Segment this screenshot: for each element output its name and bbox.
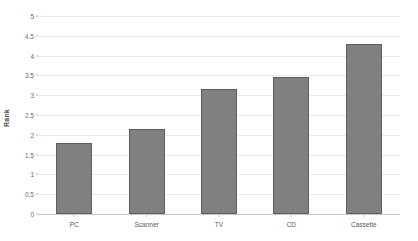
x-tick-mark [74,214,75,217]
bar-group: Scanner [110,16,182,214]
y-tick-label: 2.5 [25,112,34,119]
y-tick-label: 4.5 [25,32,34,39]
bar-group: PC [38,16,110,214]
y-tick-label: 2 [30,131,34,138]
y-tick-label: 4 [30,52,34,59]
x-tick-label: Cassette [351,221,377,228]
x-tick-label: PC [70,221,79,228]
y-tick-label: 1 [30,171,34,178]
x-tick-label: CD [287,221,296,228]
y-axis-title: Rank [0,88,14,148]
bar-group: Cassette [328,16,400,214]
y-tick-label: 0 [30,211,34,218]
y-tick-label: 1.5 [25,151,34,158]
y-tick-label: 3 [30,92,34,99]
bar-chart: Rank 00.511.522.533.544.55 PCScannerTVCD… [0,0,418,241]
bar[interactable] [56,143,92,214]
bar[interactable] [129,129,165,214]
bar[interactable] [201,89,237,214]
y-tick-label: 3.5 [25,72,34,79]
x-tick-label: Scanner [134,221,158,228]
x-tick-label: TV [215,221,223,228]
bar[interactable] [346,44,382,214]
bar[interactable] [273,77,309,214]
bar-group: TV [183,16,255,214]
bars: PCScannerTVCDCassette [38,16,400,214]
x-tick-mark [218,214,219,217]
y-tick-label: 0.5 [25,191,34,198]
x-tick-mark [363,214,364,217]
bar-group: CD [255,16,327,214]
x-tick-mark [146,214,147,217]
y-tick-label: 5 [30,13,34,20]
x-tick-mark [291,214,292,217]
plot-area: 00.511.522.533.544.55 PCScannerTVCDCasse… [38,16,400,214]
